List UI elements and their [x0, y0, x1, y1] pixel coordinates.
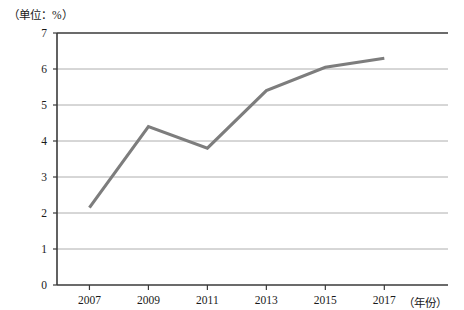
x-tick-label: 2007	[78, 294, 101, 306]
plot-svg	[0, 0, 464, 310]
y-tick-label: 0	[25, 279, 47, 291]
x-tick-label: 2009	[137, 294, 160, 306]
y-tick-label: 7	[25, 27, 47, 39]
x-tick-label: 2013	[255, 294, 278, 306]
y-tick-label: 1	[25, 243, 47, 255]
x-tick-label: 2011	[196, 294, 219, 306]
x-axis-title: （年份）	[403, 294, 447, 310]
y-tick-label: 6	[25, 63, 47, 75]
data-series-line	[89, 58, 384, 207]
y-tick-label: 5	[25, 99, 47, 111]
y-tick-label: 4	[25, 135, 47, 147]
line-chart: （单位：%） 01234567 200720092011201320152017…	[0, 0, 464, 310]
y-tick-label: 3	[25, 171, 47, 183]
x-tick-label: 2017	[373, 294, 396, 306]
gridlines-group	[57, 33, 448, 249]
x-tick-label: 2015	[314, 294, 337, 306]
y-tick-label: 2	[25, 207, 47, 219]
